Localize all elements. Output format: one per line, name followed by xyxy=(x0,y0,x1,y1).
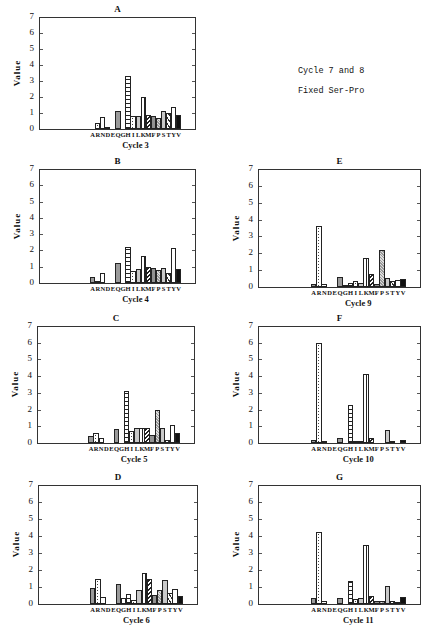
y-tick-mark xyxy=(39,553,42,554)
bar-q xyxy=(115,263,120,283)
x-tick-label: V xyxy=(399,445,407,452)
y-tick-label: 1 xyxy=(22,261,34,271)
y-tick-label: 3 xyxy=(20,387,32,397)
y-tick-mark xyxy=(417,359,420,360)
bar-t xyxy=(390,441,396,443)
panel-title: E xyxy=(330,156,350,166)
y-tick-mark xyxy=(39,587,42,588)
y-tick-mark xyxy=(192,218,195,219)
y-tick-mark xyxy=(194,587,197,588)
y-tick-label: 5 xyxy=(22,43,34,53)
y-tick-mark xyxy=(259,502,262,503)
y-tick-label: 4 xyxy=(241,370,253,380)
y-tick-mark xyxy=(417,426,420,427)
y-tick-mark xyxy=(192,250,195,251)
x-axis-title: Cycle 3 xyxy=(106,140,166,150)
y-tick-label: 3 xyxy=(22,228,34,238)
y-tick-mark xyxy=(194,570,197,571)
y-tick-label: 7 xyxy=(241,163,253,173)
y-tick-mark xyxy=(191,376,194,377)
x-tick-label: V xyxy=(174,445,182,452)
x-axis-title: Cycle 4 xyxy=(106,294,166,304)
y-tick-mark xyxy=(259,410,262,411)
y-tick-label: 6 xyxy=(241,337,253,347)
bar-m xyxy=(369,438,375,443)
y-tick-mark xyxy=(40,65,43,66)
y-tick-mark xyxy=(192,65,195,66)
y-tick-label: 4 xyxy=(241,214,253,224)
y-tick-label: 6 xyxy=(241,180,253,190)
y-tick-mark xyxy=(40,218,43,219)
y-tick-mark xyxy=(191,426,194,427)
x-tick-label: V xyxy=(176,606,184,613)
y-axis-label: Value xyxy=(231,208,241,248)
y-tick-mark xyxy=(417,536,420,537)
bar-q xyxy=(337,598,343,604)
panel-title: B xyxy=(108,156,128,166)
y-tick-label: 2 xyxy=(22,91,34,101)
x-axis-title: Cycle 5 xyxy=(104,454,164,464)
y-tick-label: 2 xyxy=(21,564,33,574)
y-tick-mark xyxy=(40,234,43,235)
x-tick-label: V xyxy=(175,131,183,138)
bar-h xyxy=(348,405,354,443)
y-tick-mark xyxy=(417,570,420,571)
y-tick-label: 7 xyxy=(22,11,34,21)
bar-r xyxy=(316,343,322,443)
y-tick-mark xyxy=(38,343,41,344)
y-tick-mark xyxy=(194,553,197,554)
bar-r xyxy=(316,532,322,604)
y-tick-mark xyxy=(417,253,420,254)
y-tick-mark xyxy=(259,536,262,537)
bar-v xyxy=(175,433,180,443)
y-tick-label: 7 xyxy=(241,479,253,489)
plot-area xyxy=(258,326,421,444)
y-tick-mark xyxy=(38,426,41,427)
y-tick-mark xyxy=(40,250,43,251)
plot-area xyxy=(258,169,421,288)
y-tick-label: 0 xyxy=(241,281,253,291)
y-tick-label: 3 xyxy=(21,547,33,557)
x-tick-label: V xyxy=(399,289,407,296)
y-axis-label: Value xyxy=(10,364,20,404)
bar-k xyxy=(363,374,369,443)
y-tick-mark xyxy=(192,81,195,82)
y-tick-mark xyxy=(192,185,195,186)
bar-v xyxy=(178,596,183,605)
y-tick-label: 0 xyxy=(22,123,34,133)
y-tick-mark xyxy=(417,587,420,588)
y-tick-label: 6 xyxy=(20,337,32,347)
y-tick-mark xyxy=(40,33,43,34)
y-tick-label: 2 xyxy=(241,564,253,574)
y-axis-label: Value xyxy=(231,524,241,564)
bar-n xyxy=(321,284,327,287)
y-tick-label: 2 xyxy=(241,247,253,257)
x-axis-title: Cycle 6 xyxy=(106,615,166,625)
bar-n xyxy=(321,601,327,604)
y-tick-label: 1 xyxy=(21,581,33,591)
y-tick-mark xyxy=(417,376,420,377)
x-axis-title: Cycle 10 xyxy=(328,454,388,464)
x-tick-label: V xyxy=(399,606,407,613)
y-tick-mark xyxy=(38,410,41,411)
bar-n xyxy=(100,273,105,283)
y-tick-mark xyxy=(191,343,194,344)
y-tick-mark xyxy=(39,502,42,503)
y-tick-label: 3 xyxy=(22,75,34,85)
panel-title: F xyxy=(330,313,350,323)
y-tick-label: 6 xyxy=(22,27,34,37)
y-tick-mark xyxy=(417,553,420,554)
y-tick-mark xyxy=(40,113,43,114)
y-tick-mark xyxy=(38,393,41,394)
y-tick-label: 2 xyxy=(241,404,253,414)
y-tick-mark xyxy=(192,113,195,114)
y-tick-label: 1 xyxy=(241,264,253,274)
y-tick-mark xyxy=(259,587,262,588)
y-tick-mark xyxy=(417,270,420,271)
bar-r xyxy=(316,226,322,287)
y-tick-label: 5 xyxy=(241,513,253,523)
y-tick-mark xyxy=(417,343,420,344)
y-tick-mark xyxy=(39,536,42,537)
y-tick-mark xyxy=(192,267,195,268)
bar-v xyxy=(400,279,406,287)
